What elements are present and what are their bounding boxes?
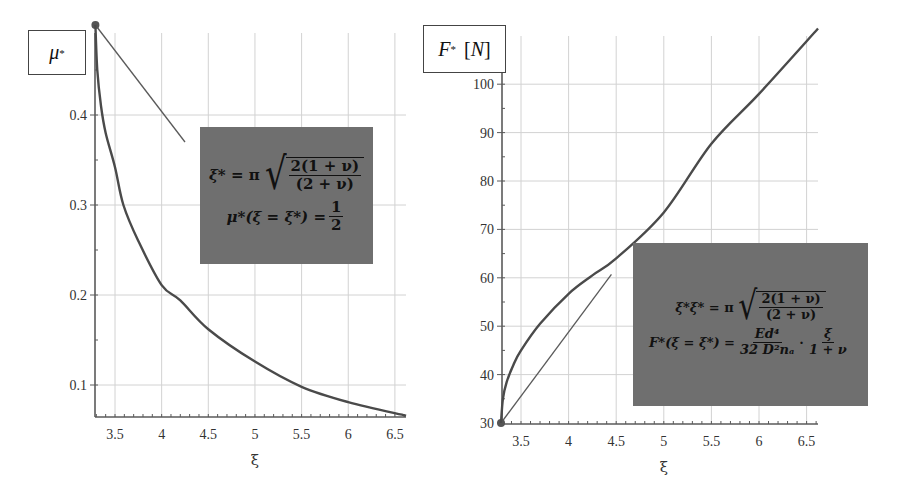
y-tick-label: 50	[480, 319, 494, 334]
x-tick-label: 4	[158, 427, 165, 442]
y-tick-label: 70	[480, 222, 494, 237]
force-star-value-formula: F*(ξ = ξ*) = Ed⁴32 D²nₐ · ξ1 + ν	[649, 327, 852, 358]
x-tick-label: 5.5	[703, 434, 721, 449]
x-tick-label: 4.5	[200, 427, 218, 442]
x-tick-label: 6.5	[798, 434, 816, 449]
y-axis-title-force-star: F* [N]	[423, 25, 506, 73]
y-tick-label: 0.4	[70, 108, 88, 123]
x-tick-label: 5	[660, 434, 667, 449]
y-tick-label: 0.2	[70, 288, 88, 303]
xi-star-formula: ξ*ξ* = π √ 2(1 + ν)(2 + ν)	[675, 291, 825, 323]
y-tick-label: 0.1	[70, 378, 88, 393]
x-tick-label: 3.5	[106, 427, 124, 442]
mu-symbol: μ	[49, 41, 59, 64]
star-superscript: *	[451, 43, 457, 55]
tangent-line	[501, 274, 611, 423]
x-tick-label: 6.5	[386, 427, 404, 442]
x-tick-label: 4.5	[607, 434, 625, 449]
y-axis-title-mu-star: μ*	[28, 30, 86, 75]
y-tick-label: 60	[480, 271, 494, 286]
force-symbol: F	[438, 38, 450, 61]
x-tick-label: 5	[251, 427, 258, 442]
y-tick-label: 40	[480, 368, 494, 383]
y-tick-label: 80	[480, 174, 494, 189]
formula-box-force: ξ*ξ* = π √ 2(1 + ν)(2 + ν) F*(ξ = ξ*) = …	[633, 243, 868, 406]
x-tick-label: 6	[345, 427, 352, 442]
star-superscript: *	[59, 47, 65, 59]
formula-box-mu: ξ* = π √ 2(1 + ν)(2 + ν) μ*(ξ = ξ*) = 12	[200, 127, 373, 264]
x-axis-title: ξ	[251, 451, 259, 469]
x-tick-label: 5.5	[293, 427, 311, 442]
mu-star-value-formula: μ*(ξ = ξ*) = 12	[227, 199, 347, 235]
y-tick-label: 90	[480, 126, 494, 141]
x-axis-title: ξ	[660, 458, 668, 476]
sqrt-sign: √ 2(1 + ν)(2 + ν)	[265, 157, 364, 194]
x-tick-label: 6	[756, 434, 763, 449]
sqrt-sign: √ 2(1 + ν)(2 + ν)	[738, 291, 825, 323]
pointer-line	[95, 25, 185, 142]
x-tick-label: 4	[565, 434, 572, 449]
xi-star-formula: ξ* = π √ 2(1 + ν)(2 + ν)	[209, 157, 364, 194]
y-tick-label: 30	[480, 416, 494, 431]
y-tick-label: 100	[473, 77, 494, 92]
y-tick-label: 0.3	[70, 198, 88, 213]
force-unit: [N]	[464, 38, 491, 61]
x-tick-label: 3.5	[512, 434, 530, 449]
